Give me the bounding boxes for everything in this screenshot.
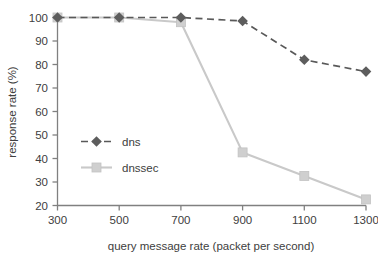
legend-label-dns: dns bbox=[122, 136, 141, 148]
y-tick-label-60: 60 bbox=[35, 106, 48, 118]
dnssec-point-900 bbox=[238, 148, 247, 157]
y-tick-label-50: 50 bbox=[35, 129, 48, 141]
x-tick-label-500: 500 bbox=[110, 214, 129, 226]
x-tick-label-1300: 1300 bbox=[353, 214, 378, 226]
y-axis-title: response rate (%) bbox=[6, 66, 18, 158]
x-tick-label-1100: 1100 bbox=[292, 214, 317, 226]
y-tick-label-100: 100 bbox=[29, 12, 48, 24]
y-tick-label-20: 20 bbox=[35, 200, 48, 212]
y-tick-label-90: 90 bbox=[35, 35, 48, 47]
x-axis-title: query message rate (packet per second) bbox=[108, 240, 315, 252]
x-tick-label-900: 900 bbox=[233, 214, 252, 226]
y-tick-label-30: 30 bbox=[35, 176, 48, 188]
legend-dnssec-marker-icon bbox=[92, 163, 101, 172]
chart-figure: 20 30 40 50 60 70 80 90 100 300 500 700 … bbox=[0, 0, 378, 266]
legend-label-dnssec: dnssec bbox=[122, 162, 159, 174]
response-rate-line-chart: 20 30 40 50 60 70 80 90 100 300 500 700 … bbox=[0, 0, 378, 266]
x-tick-label-700: 700 bbox=[171, 214, 190, 226]
y-tick-label-80: 80 bbox=[35, 59, 48, 71]
y-tick-label-70: 70 bbox=[35, 82, 48, 94]
dnssec-point-1300 bbox=[362, 195, 371, 204]
y-tick-label-40: 40 bbox=[35, 153, 48, 165]
dnssec-point-1100 bbox=[300, 171, 309, 180]
x-tick-label-300: 300 bbox=[48, 214, 67, 226]
